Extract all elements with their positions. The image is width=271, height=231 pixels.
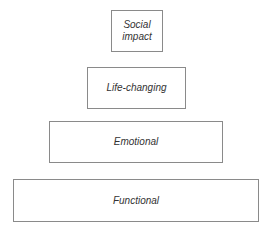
level-label: Emotional	[114, 136, 158, 148]
level-life-changing: Life-changing	[87, 67, 186, 109]
level-label-line1: Social	[123, 19, 150, 31]
level-label-line2: impact	[122, 31, 151, 43]
level-label: Functional	[113, 195, 159, 207]
level-label: Life-changing	[106, 82, 166, 94]
level-functional: Functional	[13, 179, 259, 222]
level-social-impact: Social impact	[111, 10, 163, 52]
level-emotional: Emotional	[49, 121, 223, 163]
